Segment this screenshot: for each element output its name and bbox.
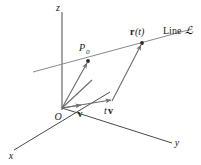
line-L-symbol: ℒ (185, 24, 194, 36)
vectors-group (62, 45, 141, 108)
vector-p0-to-rt (88, 46, 140, 61)
vector-tv-label: t v (104, 105, 113, 116)
line-in-space-diagram: z y x O P 0 r (t) Line ℒ v (0, 0, 201, 165)
figure-container: z y x O P 0 r (t) Line ℒ v (0, 0, 201, 165)
vector-rt-label: r (t) (130, 26, 145, 38)
z-axis-label: z (55, 2, 60, 13)
vector-tv-vector: v (108, 105, 113, 116)
line-L-label: Line ℒ (163, 24, 194, 36)
vector-v-label: v (78, 108, 83, 119)
origin-label: O (54, 111, 61, 122)
point-p0-letter: P (78, 42, 85, 53)
point-p0-subscript: 0 (86, 48, 90, 56)
x-axis-label: x (8, 150, 14, 161)
vector-tv-scalar: t (104, 105, 107, 116)
axes-group (14, 12, 172, 150)
point-rt-dot (140, 41, 144, 45)
vector-tv-to-rt (112, 45, 141, 101)
line-L-word: Line (163, 25, 182, 36)
point-p0-dot (86, 59, 90, 63)
vector-rt-argument: (t) (135, 26, 145, 38)
point-p0-label: P 0 (78, 42, 90, 56)
y-axis-label: y (174, 137, 180, 148)
vector-to-p0 (62, 63, 87, 108)
